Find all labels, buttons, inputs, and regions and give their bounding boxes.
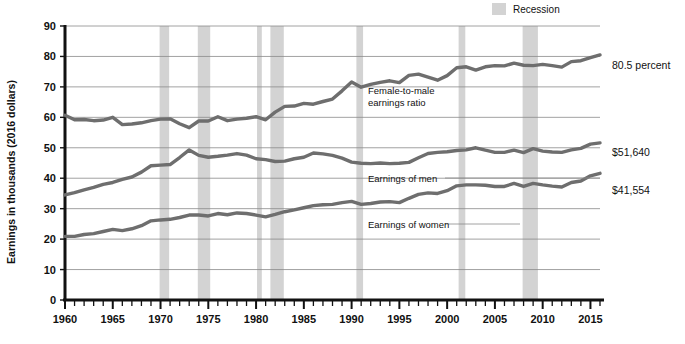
recession-swatch bbox=[492, 3, 506, 15]
earnings-line-chart: 0102030405060708090 19601965197019751980… bbox=[0, 0, 685, 344]
x-tick-label-2000: 2000 bbox=[435, 313, 459, 325]
y-tick-label-40: 40 bbox=[44, 172, 56, 184]
legend: Recession bbox=[492, 3, 560, 15]
end-label-ratio: 80.5 percent bbox=[612, 59, 670, 71]
x-tick-label-2015: 2015 bbox=[578, 313, 602, 325]
x-tick-label-1965: 1965 bbox=[101, 313, 125, 325]
x-tick-label-1990: 1990 bbox=[339, 313, 363, 325]
end-label-women: $41,554 bbox=[612, 184, 650, 196]
legend-label-recession: Recession bbox=[513, 4, 560, 15]
y-tick-label-90: 90 bbox=[44, 20, 56, 32]
x-tick-label-2010: 2010 bbox=[530, 313, 554, 325]
y-axis-title: Earnings in thousands (2016 dollars) bbox=[5, 80, 17, 264]
x-tick-label-2005: 2005 bbox=[483, 313, 507, 325]
x-tick-label-1975: 1975 bbox=[196, 313, 220, 325]
recession-band-1 bbox=[198, 26, 210, 300]
annotation-ratio-line2: earnings ratio bbox=[368, 97, 426, 108]
y-tick-label-10: 10 bbox=[44, 264, 56, 276]
chart-background bbox=[0, 0, 685, 344]
x-tick-label-1995: 1995 bbox=[387, 313, 411, 325]
x-tick-label-1980: 1980 bbox=[244, 313, 268, 325]
y-tick-label-60: 60 bbox=[44, 111, 56, 123]
y-tick-label-0: 0 bbox=[50, 294, 56, 306]
recession-band-2 bbox=[257, 26, 262, 300]
y-tick-label-80: 80 bbox=[44, 50, 56, 62]
x-tick-label-1960: 1960 bbox=[53, 313, 77, 325]
chart-container: 0102030405060708090 19601965197019751980… bbox=[0, 0, 685, 344]
y-tick-label-70: 70 bbox=[44, 81, 56, 93]
annotation-earnings-men: Earnings of men bbox=[368, 173, 437, 184]
x-tick-label-1985: 1985 bbox=[292, 313, 316, 325]
annotation-ratio-line1: Female-to-male bbox=[368, 85, 435, 96]
y-tick-label-20: 20 bbox=[44, 233, 56, 245]
y-tick-label-50: 50 bbox=[44, 142, 56, 154]
y-tick-label-30: 30 bbox=[44, 203, 56, 215]
x-tick-label-1970: 1970 bbox=[148, 313, 172, 325]
end-label-men: $51,640 bbox=[612, 146, 650, 158]
annotation-earnings-women: Earnings of women bbox=[368, 219, 449, 230]
